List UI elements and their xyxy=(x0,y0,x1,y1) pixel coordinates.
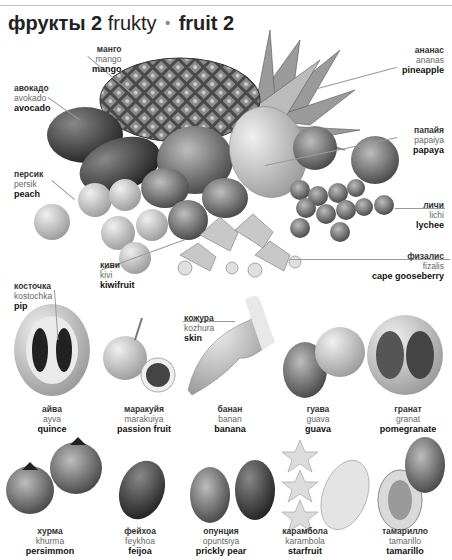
label-papaya: папайяpapaiyapapaya xyxy=(413,125,444,155)
label-pip: косточкаkostochkapip xyxy=(14,281,52,311)
quince-art xyxy=(14,304,90,396)
pomegranate-art xyxy=(367,315,443,395)
label-tamarillo: тамариллоtamarillotamarillo xyxy=(370,526,440,556)
label-lychee: личиlichilychee xyxy=(416,200,444,230)
lychees xyxy=(290,179,394,242)
label-persimmon: хурмаkhurmapersimmon xyxy=(20,526,80,556)
persimmon-art xyxy=(6,437,102,514)
label-quince: айваayvaquince xyxy=(22,404,82,434)
label-skin: кожураkozhuraskin xyxy=(184,313,214,343)
label-pomegranate: гранатgranatpomegranate xyxy=(368,404,448,434)
label-passion-fruit: маракуйяmarakuiyapassion fruit xyxy=(104,404,184,434)
label-kiwifruit: кивиkivikiwifruit xyxy=(100,260,135,290)
label-prickly-pear: опунцияopuntsiyaprickly pear xyxy=(186,526,256,556)
label-peach: персикpersikpeach xyxy=(14,169,43,199)
feijoa-art xyxy=(111,454,173,525)
label-cape-gooseberry: физалисfizaliscape gooseberry xyxy=(372,251,444,281)
prickly-pear-art xyxy=(190,460,275,523)
label-mango: мангоmangomango xyxy=(92,44,122,74)
label-avocado: авокадоavokadoavocado xyxy=(14,83,51,113)
label-feijoa: фейхоаfeykhoafeijoa xyxy=(110,526,170,556)
guava-art xyxy=(283,327,365,398)
label-starfruit: карамболаkarambolastarfruit xyxy=(270,526,340,556)
starfruit-art xyxy=(282,440,378,536)
passion-fruit-art xyxy=(103,318,175,392)
label-pineapple: ананасananaspineapple xyxy=(402,45,444,75)
label-banana: бананbananbanana xyxy=(200,404,260,434)
label-guava: гуаваguavaguava xyxy=(288,404,348,434)
banana-art xyxy=(188,296,275,395)
tamarillo-art xyxy=(378,437,445,530)
